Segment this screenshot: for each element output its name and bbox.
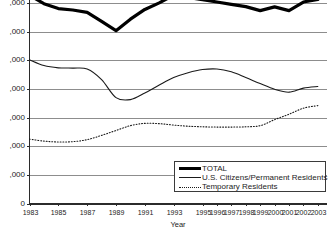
y-axis-tick-label: 0 (0, 200, 25, 208)
data-series (30, 0, 318, 142)
x-axis-tick-label: 1987 (76, 209, 100, 216)
series-line (30, 106, 318, 142)
chart-legend: TOTAL U.S. Citizens/Permanent Residents … (174, 161, 326, 192)
y-axis-tick-label: ,000 (0, 56, 25, 64)
legend-label-temporary: Temporary Residents (201, 182, 278, 191)
x-axis-tick-label: 1993 (163, 209, 187, 216)
x-axis-title: Year (30, 221, 327, 229)
y-axis-tick-label: ,000 (0, 85, 25, 93)
y-axis-tick-label: ,000 (0, 28, 25, 36)
legend-label-total: TOTAL (201, 164, 227, 173)
y-axis-tick-label: ,000 (0, 0, 25, 7)
legend-item-temporary: Temporary Residents (179, 182, 278, 191)
x-axis-tick-label: 1991 (134, 209, 158, 216)
y-axis-tick-label: ,000 (0, 142, 25, 150)
x-axis-tick-label: 1983 (19, 209, 43, 216)
legend-swatch-citizens-icon (179, 173, 201, 182)
legend-swatch-temporary-icon (179, 182, 201, 191)
legend-swatch-total-icon (179, 164, 201, 173)
legend-item-citizens: U.S. Citizens/Permanent Residents (179, 173, 327, 182)
x-axis-tick-label: 1985 (47, 209, 71, 216)
chart-plot-area (0, 0, 328, 231)
x-axis-tick-label: 1989 (105, 209, 129, 216)
legend-item-total: TOTAL (179, 164, 227, 173)
line-chart: ,000,000,000,000,000,000,0000 1983198519… (0, 0, 328, 231)
y-axis-tick-label: ,000 (0, 171, 25, 179)
legend-label-citizens: U.S. Citizens/Permanent Residents (201, 173, 327, 182)
series-line (30, 0, 318, 31)
y-axis-tick-label: ,000 (0, 114, 25, 122)
series-line (30, 60, 318, 100)
x-axis-tick-label: 2003 (307, 209, 328, 216)
